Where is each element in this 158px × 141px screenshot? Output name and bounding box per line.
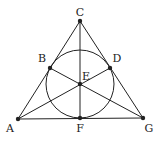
- label-A: A: [5, 122, 15, 135]
- fano-plane-diagram: ABCDEFG: [0, 0, 158, 141]
- diagram-canvas: ABCDEFG: [0, 0, 158, 141]
- point-G: [141, 116, 145, 120]
- label-B: B: [38, 52, 46, 65]
- label-E: E: [82, 70, 90, 83]
- label-G: G: [145, 122, 154, 135]
- point-B: [48, 66, 52, 70]
- point-F: [78, 116, 82, 120]
- label-C: C: [76, 6, 84, 19]
- diagram-labels: ABCDEFG: [5, 6, 153, 135]
- point-C: [78, 19, 82, 23]
- diagram-lines: [18, 21, 143, 119]
- point-D: [108, 66, 112, 70]
- label-F: F: [76, 122, 84, 135]
- point-A: [16, 117, 20, 121]
- label-D: D: [113, 52, 122, 65]
